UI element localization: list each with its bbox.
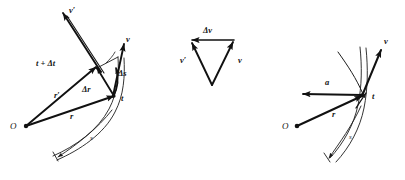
kinematics-figure: O v′ v t + Δt Δs Δr r′ r t s Δv v′ v	[0, 0, 405, 180]
left-vector-v-prime	[63, 13, 101, 72]
left-label-t-plus-delta-t: t + Δt	[36, 58, 56, 68]
left-label-v-prime: v′	[69, 5, 75, 15]
right-vector-v	[362, 50, 381, 96]
left-angle-helper	[97, 57, 118, 68]
left-panel: O v′ v t + Δt Δs Δr r′ r t s	[10, 5, 130, 161]
left-label-delta-s: Δs	[117, 68, 127, 78]
left-label-v: v	[126, 34, 130, 44]
right-vector-a	[303, 94, 362, 95]
left-point-t-dot	[112, 94, 115, 97]
right-label-origin: O	[282, 121, 289, 131]
right-label-r: r	[332, 109, 336, 119]
right-incoming-branch	[338, 52, 363, 94]
right-label-a: a	[325, 77, 330, 87]
right-label-s: s	[349, 133, 352, 141]
left-arclength-bracket-tick	[53, 152, 58, 161]
left-trajectory-curve	[57, 58, 124, 160]
middle-vector-v	[212, 42, 233, 85]
left-vector-delta-r	[97, 68, 114, 96]
middle-vector-v-prime	[192, 43, 212, 85]
middle-label-v: v	[238, 55, 242, 65]
middle-label-v-prime: v′	[180, 55, 186, 65]
right-vector-r	[297, 96, 362, 126]
left-origin-dot	[24, 124, 28, 128]
right-origin-dot	[295, 124, 300, 129]
left-label-origin: O	[10, 121, 17, 131]
left-label-r-prime: r′	[54, 90, 60, 100]
right-label-v: v	[384, 36, 388, 46]
left-label-t: t	[121, 93, 124, 103]
right-label-t: t	[372, 91, 375, 101]
left-point-t-plus-dt-dot	[95, 66, 98, 69]
right-point-t-dot	[360, 93, 364, 97]
left-label-s: s	[90, 134, 93, 142]
middle-label-delta-v: Δv	[202, 25, 212, 35]
left-vector-r-prime	[26, 67, 96, 126]
left-label-delta-r: Δr	[81, 84, 91, 94]
left-label-r: r	[70, 111, 74, 121]
middle-panel: Δv v′ v	[180, 25, 242, 85]
right-panel: O v a t r s	[282, 36, 388, 162]
left-vector-v-prime-shadow	[67, 16, 104, 73]
